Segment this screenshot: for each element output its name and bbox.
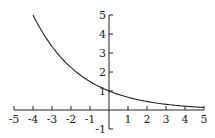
x-tick-label: 5 <box>201 113 208 126</box>
exponential-chart: -5-4-3-2-11234554321-1 <box>0 0 215 138</box>
y-tick-label: 3 <box>99 47 106 60</box>
y-tick-label: 4 <box>99 28 106 41</box>
x-tick-label: -5 <box>9 113 20 126</box>
curve-line <box>33 15 204 107</box>
y-tick-label: 2 <box>99 66 106 79</box>
x-tick-label: 4 <box>182 113 189 126</box>
x-tick-label: 3 <box>163 113 170 126</box>
axes: -5-4-3-2-11234554321-1 <box>9 9 208 136</box>
x-tick-label: -4 <box>28 113 39 126</box>
x-tick-label: -1 <box>85 113 96 126</box>
x-tick-label: -2 <box>66 113 77 126</box>
x-tick-label: -3 <box>47 113 58 126</box>
x-tick-label: 1 <box>125 113 132 126</box>
y-tick-label: 5 <box>99 9 106 22</box>
y-tick-label: -1 <box>95 123 106 136</box>
x-tick-label: 2 <box>144 113 151 126</box>
